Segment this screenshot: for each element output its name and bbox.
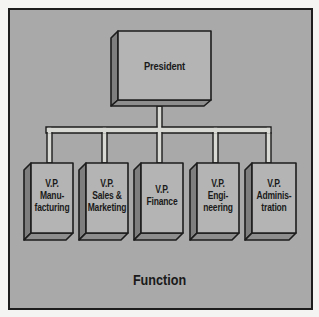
president-label: President [125,31,204,100]
vp-finance-label: V.P. Finance [141,163,184,229]
connector-lines [46,106,271,163]
vp-administration-label: V.P. Adminis- tration [253,163,296,229]
vp-engineering-label: V.P. Engi- neering [197,163,240,229]
diagram-caption: Function [16,272,303,288]
vp-manufacturing-label: V.P. Manu- facturing [31,163,74,229]
vp-sales-marketing-label: V.P. Sales & Marketing [86,163,129,229]
